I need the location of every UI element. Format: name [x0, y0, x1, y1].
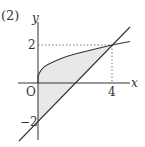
problem-label: (2) — [1, 8, 19, 23]
y-axis-label: y — [31, 11, 39, 25]
x-tick-4: 4 — [108, 85, 116, 99]
x-axis-label: x — [131, 76, 138, 90]
graph: (2) y x O 4 2 −2 — [0, 0, 145, 147]
y-tick-neg2: −2 — [20, 115, 38, 129]
origin-label: O — [26, 85, 36, 99]
y-tick-2: 2 — [28, 38, 36, 52]
